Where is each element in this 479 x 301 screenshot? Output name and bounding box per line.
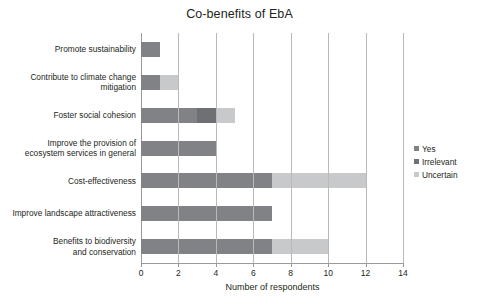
x-tick-mark (291, 263, 292, 267)
category-label: Foster social cohesion (8, 110, 136, 121)
x-tick-label: 0 (126, 268, 156, 278)
category-label: Cost-effectiveness (8, 176, 136, 187)
bar-segment-uncertain[interactable] (216, 108, 235, 123)
bar-row[interactable] (141, 75, 403, 90)
bar-segment-yes[interactable] (141, 42, 160, 57)
legend-item[interactable]: Uncertain (414, 168, 476, 181)
bar-row[interactable] (141, 108, 403, 123)
gridline (403, 33, 404, 263)
legend-label: Yes (422, 144, 436, 154)
x-tick-label: 6 (238, 268, 268, 278)
x-tick-mark (178, 263, 179, 267)
legend-swatch-icon (414, 159, 419, 164)
bar-row[interactable] (141, 173, 403, 188)
gridline (366, 33, 367, 263)
bar-segment-uncertain[interactable] (272, 173, 366, 188)
legend-swatch-icon (414, 172, 419, 177)
bar-row[interactable] (141, 206, 403, 221)
bar-row[interactable] (141, 239, 403, 254)
bar-segment-uncertain[interactable] (272, 239, 328, 254)
bar-segment-irrelevant[interactable] (197, 108, 216, 123)
bar-row[interactable] (141, 42, 403, 57)
gridline (178, 33, 179, 263)
category-label-line: Foster social cohesion (8, 110, 136, 121)
category-label-line: and conservation (8, 247, 136, 258)
category-label-line: Cost-effectiveness (8, 176, 136, 187)
category-label-line: Promote sustainability (8, 44, 136, 55)
chart-legend: YesIrrelevantUncertain (414, 142, 476, 181)
x-tick-label: 12 (351, 268, 381, 278)
category-label-line: Improve the provision of (8, 138, 136, 149)
chart-title: Co-benefits of EbA (0, 7, 479, 21)
category-label: Improve landscape attractiveness (8, 208, 136, 219)
category-label-line: Improve landscape attractiveness (8, 208, 136, 219)
legend-item[interactable]: Irrelevant (414, 155, 476, 168)
x-tick-mark (216, 263, 217, 267)
x-tick-label: 14 (388, 268, 418, 278)
category-label-line: mitigation (8, 82, 136, 93)
category-label: Promote sustainability (8, 44, 136, 55)
x-tick-label: 8 (276, 268, 306, 278)
x-tick-mark (253, 263, 254, 267)
gridline (291, 33, 292, 263)
legend-swatch-icon (414, 146, 419, 151)
category-label: Benefits to biodiversityand conservation (8, 236, 136, 257)
x-tick-label: 4 (201, 268, 231, 278)
gridline (253, 33, 254, 263)
category-label: Contribute to climate changemitigation (8, 72, 136, 93)
x-tick-mark (141, 263, 142, 267)
legend-label: Uncertain (422, 170, 458, 180)
category-label: Improve the provision ofecosystem servic… (8, 138, 136, 159)
x-axis-title: Number of respondents (141, 282, 404, 292)
legend-label: Irrelevant (422, 157, 457, 167)
category-label-line: Benefits to biodiversity (8, 236, 136, 247)
legend-item[interactable]: Yes (414, 142, 476, 155)
x-tick-mark (366, 263, 367, 267)
x-axis-line (141, 263, 404, 264)
gridline (328, 33, 329, 263)
bar-segment-yes[interactable] (141, 108, 197, 123)
bar-segment-yes[interactable] (141, 75, 160, 90)
x-tick-label: 2 (163, 268, 193, 278)
x-tick-label: 10 (313, 268, 343, 278)
bar-segment-uncertain[interactable] (160, 75, 179, 90)
x-tick-mark (328, 263, 329, 267)
x-tick-mark (403, 263, 404, 267)
chart-container: Co-benefits of EbA 02468101214 Promote s… (0, 0, 479, 301)
gridline (216, 33, 217, 263)
plot-area (141, 33, 403, 263)
bar-row[interactable] (141, 141, 403, 156)
category-label-line: ecosystem services in general (8, 148, 136, 159)
category-label-line: Contribute to climate change (8, 72, 136, 83)
